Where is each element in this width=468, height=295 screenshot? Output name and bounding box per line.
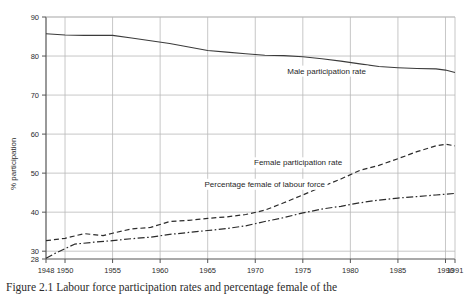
y-tick-label: 40 xyxy=(31,208,39,217)
y-axis-title: % participation xyxy=(9,138,18,190)
x-tick-label: 1950 xyxy=(57,266,74,275)
grid-lines xyxy=(46,17,455,259)
x-tick-label: 1975 xyxy=(294,266,311,275)
series-line-0 xyxy=(46,34,455,73)
x-tick-labels: 1948195019551960196519701975198019851990… xyxy=(38,259,464,275)
x-tick-label: 1948 xyxy=(38,266,55,275)
x-tick-label: 1985 xyxy=(390,266,407,275)
y-tick-labels: 2830405060708090 xyxy=(31,13,46,264)
y-tick-label: 80 xyxy=(31,52,39,61)
x-tick-label: 1991 xyxy=(447,266,464,275)
series-label-0: Male participation rate xyxy=(287,67,366,76)
y-tick-label: 60 xyxy=(31,130,39,139)
data-series xyxy=(46,34,455,258)
y-tick-label: 70 xyxy=(31,91,39,100)
y-tick-label: 90 xyxy=(31,13,39,22)
y-tick-label: 30 xyxy=(31,247,39,256)
y-tick-label: 28 xyxy=(31,255,39,264)
series-line-2 xyxy=(46,193,455,258)
series-label-1: Female participation rate xyxy=(254,158,343,167)
chart-axes xyxy=(46,17,455,259)
series-labels: Male participation rateFemale participat… xyxy=(203,66,369,190)
x-tick-label: 1970 xyxy=(247,266,264,275)
x-tick-label: 1955 xyxy=(104,266,121,275)
y-tick-label: 50 xyxy=(31,169,39,178)
figure-caption: Figure 2.1 Labour force participation ra… xyxy=(6,281,466,295)
series-line-1 xyxy=(46,144,455,240)
x-tick-label: 1980 xyxy=(342,266,359,275)
x-tick-label: 1965 xyxy=(199,266,216,275)
series-label-2: Percentage female of labour force xyxy=(205,180,326,189)
x-tick-label: 1960 xyxy=(152,266,169,275)
figure-caption-text: Figure 2.1 Labour force participation ra… xyxy=(6,281,466,293)
